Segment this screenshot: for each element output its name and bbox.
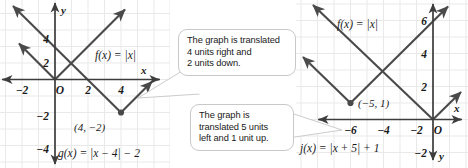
callout-translation-right-down: The graph is translated 4 units right an… <box>178 29 296 76</box>
right-ytick-neg2: −2 <box>414 147 427 159</box>
callout-bottom-line-3: left and 1 unit up. <box>199 133 286 145</box>
left-ytick-neg4: −4 <box>36 143 49 155</box>
left-ytick-4: 4 <box>42 33 49 45</box>
right-xtick-neg4: −4 <box>377 124 390 136</box>
left-origin-label: O <box>56 84 64 96</box>
left-vertex-point <box>118 109 124 115</box>
right-ytick-2: 2 <box>420 81 427 93</box>
left-xtick-2: 2 <box>84 84 91 96</box>
right-ytick-6: 6 <box>421 15 427 27</box>
left-y-axis-name: y <box>59 4 66 16</box>
left-label-vertex: (4, −2) <box>74 121 106 134</box>
callout-translation-left-up: The graph is translated 5 units left and… <box>190 104 294 151</box>
right-ytick-4: 4 <box>420 48 427 60</box>
right-x-axis-name: x <box>453 102 460 114</box>
figure-container: 4 2 −2 −4 −2 2 4 O x y f(x) = |x| (4, −2… <box>0 0 468 168</box>
callout-bottom-line-2: translated 5 units <box>199 122 286 134</box>
right-y-axis-name: y <box>437 150 444 162</box>
right-vertex-point <box>347 100 353 106</box>
left-xtick-4: 4 <box>117 84 124 96</box>
right-label-f: f(x) = |x| <box>337 18 378 31</box>
left-xtick-neg2: −2 <box>16 84 29 96</box>
left-label-g: g(x) = |x − 4| − 2 <box>58 147 140 160</box>
callout-top-line-1: The graph is translated <box>187 35 288 47</box>
callout-bottom-tail <box>286 108 344 144</box>
callout-top-line-3: 2 units down. <box>187 58 288 70</box>
left-ytick-2: 2 <box>42 57 49 69</box>
right-label-vertex: (−5, 1) <box>358 97 390 110</box>
right-xtick-neg2: −2 <box>410 124 423 136</box>
right-origin-label: O <box>434 124 442 136</box>
callout-bottom-line-1: The graph is <box>199 110 286 122</box>
right-xtick-neg6: −6 <box>344 124 357 136</box>
callout-top-line-2: 4 units right and <box>187 47 288 59</box>
left-ytick-neg2: −2 <box>36 110 49 122</box>
